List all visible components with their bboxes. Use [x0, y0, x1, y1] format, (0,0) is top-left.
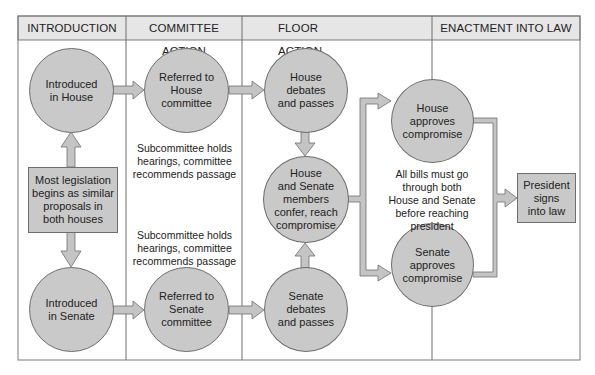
column-header-introduction: INTRODUCTION [18, 17, 126, 40]
node-referred-senate: Referred to Senate committee [144, 267, 229, 352]
node-origin-box: Most legislation begins as similar propo… [28, 167, 118, 233]
arrow-down-icon [295, 132, 315, 156]
node-senate-debates: Senate debates and passes [264, 267, 348, 352]
node-introduced-senate: Introduced in Senate [29, 267, 114, 352]
node-introduced-house: Introduced in House [29, 48, 114, 133]
arrow-up-icon [295, 243, 315, 268]
node-senate-approves: Senate approves compromise [391, 223, 474, 307]
node-conference: House and Senate members confer, reach c… [263, 156, 349, 243]
note-committee-senate: Subcommittee holds hearings, committee r… [127, 229, 242, 268]
node-referred-house: Referred to House committee [144, 48, 229, 133]
note-committee-house: Subcommittee holds hearings, committee r… [127, 142, 242, 181]
note-both-houses: All bills must go through both House and… [370, 168, 494, 233]
column-header-committee-action: COMMITTEE ACTION [126, 17, 242, 40]
column-header-enactment: ENACTMENT INTO LAW [432, 17, 580, 40]
arrow-right-icon [229, 81, 264, 99]
arrow-right-icon [113, 81, 144, 99]
arrow-up-icon [61, 132, 81, 167]
arrow-right-icon [229, 301, 264, 319]
node-house-approves: House approves compromise [391, 79, 474, 163]
arrow-down-icon [61, 232, 81, 267]
arrow-right-icon [113, 301, 144, 319]
node-house-debates: House debates and passes [264, 48, 348, 133]
node-president: President signs into law [517, 173, 576, 223]
column-header-floor-action: FLOOR ACTION [242, 17, 362, 40]
